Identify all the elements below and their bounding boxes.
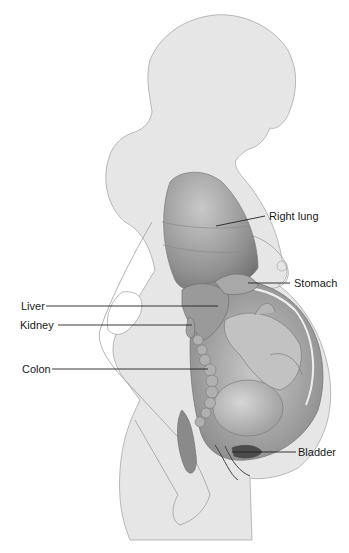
- label-stomach: Stomach: [294, 277, 337, 289]
- label-kidney: Kidney: [20, 319, 54, 331]
- label-bladder: Bladder: [298, 446, 336, 458]
- label-right-lung: Right lung: [269, 210, 319, 222]
- anatomy-diagram: Right lung Stomach Liver Kidney Colon Bl…: [0, 0, 349, 553]
- kidney: [186, 318, 195, 338]
- label-liver: Liver: [21, 300, 45, 312]
- label-colon: Colon: [22, 363, 51, 375]
- fetus-head: [213, 380, 283, 436]
